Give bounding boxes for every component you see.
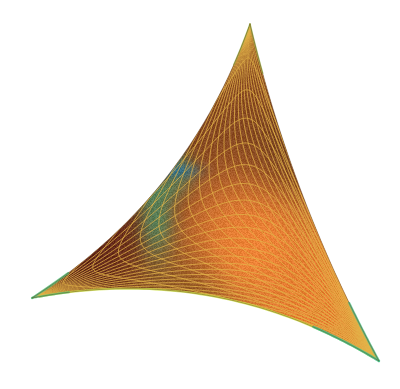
surface-shading-canvas — [0, 0, 400, 389]
surface-plot-figure — [0, 0, 400, 389]
